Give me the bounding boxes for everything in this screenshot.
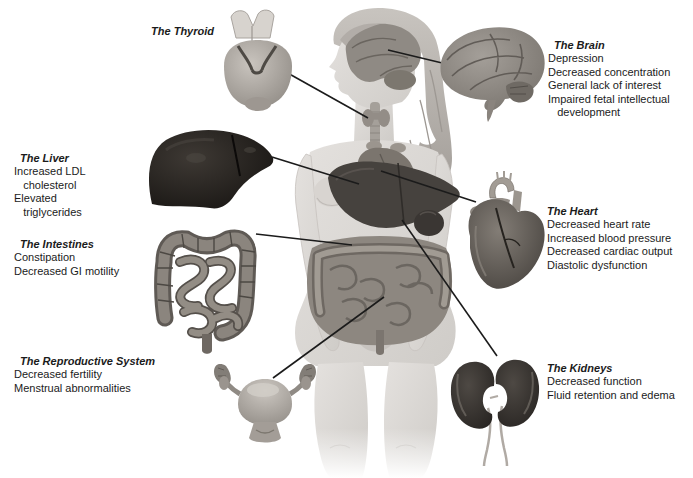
intestines-effect: Constipation [14, 251, 119, 264]
liver-effect: cholesterol [14, 179, 86, 192]
brain-label-title: The Brain [548, 39, 670, 52]
reproductive-label: The Reproductive System Decreased fertil… [14, 355, 155, 395]
intestines-effect: Decreased GI motility [14, 265, 119, 278]
intestines-illustration [157, 232, 256, 354]
reproductive-label-title: The Reproductive System [14, 355, 155, 368]
heart-effect: Increased blood pressure [547, 232, 672, 245]
hypothyroidism-effects-diagram: The Thyroid The Brain Depression Decreas… [0, 0, 693, 478]
liver-label: The Liver Increased LDL cholesterol Elev… [14, 152, 86, 219]
brain-effect: development [548, 106, 670, 119]
heart-illustration [469, 171, 545, 289]
brain-label: The Brain Depression Decreased concentra… [548, 39, 670, 119]
heart-effect: Diastolic dysfunction [547, 259, 672, 272]
liver-effect: Increased LDL [14, 165, 86, 178]
brain-illustration [440, 27, 544, 122]
kidneys-label: The Kidneys Decreased function Fluid ret… [547, 362, 675, 402]
intestines-label-title: The Intestines [14, 238, 119, 251]
intestines-label: The Intestines Constipation Decreased GI… [14, 238, 119, 278]
kidneys-effect: Decreased function [547, 375, 675, 388]
liver-effect: triglycerides [14, 206, 86, 219]
brain-effect: Impaired fetal intellectual [548, 93, 670, 106]
brain-effect: Decreased concentration [548, 66, 670, 79]
reproductive-effect: Menstrual abnormalities [14, 382, 155, 395]
thyroid-label-title: The Thyroid [118, 25, 214, 38]
liver-effect: Elevated [14, 192, 86, 205]
heart-label: The Heart Decreased heart rate Increased… [547, 205, 672, 272]
stomach-in-body [414, 210, 444, 236]
kidneys-effect: Fluid retention and edema [547, 389, 675, 402]
heart-label-title: The Heart [547, 205, 672, 218]
brain-effect: General lack of interest [548, 79, 670, 92]
brain-effect: Depression [548, 52, 670, 65]
liver-illustration [149, 130, 273, 209]
thyroid-label: The Thyroid [118, 25, 214, 38]
liver-label-title: The Liver [14, 152, 86, 165]
thyroid-illustration [224, 10, 292, 111]
heart-effect: Decreased cardiac output [547, 245, 672, 258]
kidneys-label-title: The Kidneys [547, 362, 675, 375]
reproductive-effect: Decreased fertility [14, 368, 155, 381]
heart-effect: Decreased heart rate [547, 218, 672, 231]
